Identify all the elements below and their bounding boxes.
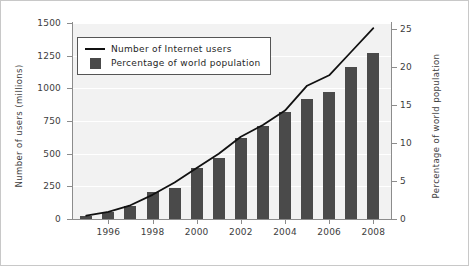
y-axis-left-tick-label: 750: [43, 116, 61, 126]
y-axis-right-tick-label: 10: [400, 138, 412, 148]
legend-label-world-population: Percentage of world population: [111, 58, 261, 68]
y-axis-right-tick: [392, 105, 397, 106]
y-axis-left-tick-label: 0: [55, 214, 61, 224]
x-axis-tick: [108, 220, 109, 224]
x-axis-tick-label: 1998: [141, 227, 165, 237]
chart-figure: 0250500750100012501500 0510152025 199619…: [0, 0, 469, 266]
legend-item-internet-users: Number of Internet users: [84, 42, 261, 56]
x-axis-tick-label: 2004: [273, 227, 297, 237]
y-axis-left-spine: [72, 22, 73, 220]
y-axis-right-tick: [392, 143, 397, 144]
legend-line-key-icon: [84, 48, 106, 50]
y-axis-right-tick-label: 5: [400, 176, 406, 186]
x-axis-tick: [329, 220, 330, 224]
y-axis-left-tick-label: 250: [43, 181, 61, 191]
y-axis-left-tick: [67, 186, 72, 187]
y-axis-left-tick-label: 1500: [37, 18, 61, 28]
y-axis-right-tick: [392, 219, 397, 220]
x-axis-tick: [373, 220, 374, 224]
x-axis-tick: [197, 220, 198, 224]
legend-item-world-population: Percentage of world population: [84, 56, 261, 70]
y-axis-left-tick-label: 500: [43, 149, 61, 159]
x-axis-tick: [285, 220, 286, 224]
y-axis-right-tick-label: 20: [400, 62, 412, 72]
x-axis-tick-label: 2008: [361, 227, 385, 237]
y-axis-left-tick: [67, 121, 72, 122]
y-axis-right-tick: [392, 181, 397, 182]
x-axis-spine: [72, 219, 392, 220]
legend-label-internet-users: Number of Internet users: [111, 44, 232, 54]
y-axis-left-tick: [67, 154, 72, 155]
x-axis-tick-label: 2006: [317, 227, 341, 237]
y-axis-left-tick: [67, 88, 72, 89]
x-axis-tick: [153, 220, 154, 224]
y-axis-left-tick: [67, 56, 72, 57]
y-axis-left-title: Number of users (millions): [14, 36, 24, 216]
chart-legend: Number of Internet users Percentage of w…: [77, 37, 271, 75]
y-axis-left-tick: [67, 219, 72, 220]
y-axis-right-tick: [392, 67, 397, 68]
y-axis-left-tick-label: 1250: [37, 51, 61, 61]
x-axis-tick-label: 2000: [185, 227, 209, 237]
legend-swatch-key-icon: [84, 58, 106, 69]
y-axis-right-tick: [392, 29, 397, 30]
y-axis-left-tick: [67, 23, 72, 24]
y-axis-right-title: Percentage of world population: [431, 36, 441, 216]
y-axis-left-tick-label: 1000: [37, 83, 61, 93]
x-axis-tick-label: 2002: [229, 227, 253, 237]
x-axis-tick: [241, 220, 242, 224]
y-axis-right-tick-label: 15: [400, 100, 412, 110]
x-axis-tick-label: 1996: [96, 227, 120, 237]
y-axis-right-tick-label: 0: [400, 214, 406, 224]
y-axis-right-spine: [391, 22, 392, 220]
y-axis-right-tick-label: 25: [400, 24, 412, 34]
